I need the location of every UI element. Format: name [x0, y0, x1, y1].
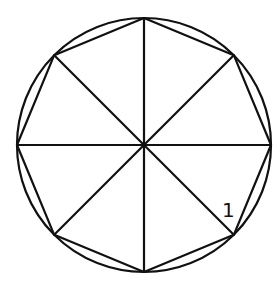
triangle-label: 1: [222, 198, 235, 222]
diagonal-line: [54, 55, 144, 145]
octagon-in-circle-diagram: 1: [0, 0, 280, 284]
diagonal-line: [144, 55, 234, 145]
diagonal-line: [144, 145, 234, 235]
diagonals: [17, 18, 271, 272]
diagonal-line: [54, 145, 144, 235]
labels: 1: [222, 198, 235, 222]
